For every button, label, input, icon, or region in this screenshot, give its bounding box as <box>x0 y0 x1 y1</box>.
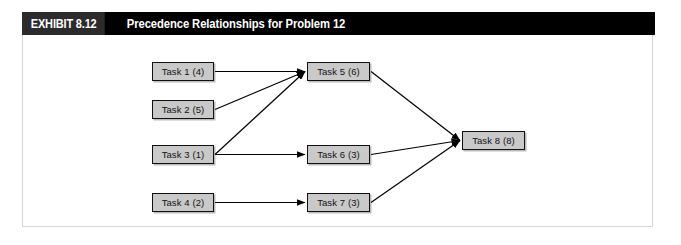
exhibit-title: Precedence Relationships for Problem 12 <box>116 12 345 35</box>
task-node-task3: Task 3 (1) <box>152 145 214 164</box>
exhibit-number-label: EXHIBIT 8.12 <box>22 12 104 35</box>
task-node-task5: Task 5 (6) <box>307 62 370 81</box>
exhibit-header: EXHIBIT 8.12 Precedence Relationships fo… <box>22 12 655 35</box>
task-node-task2: Task 2 (5) <box>152 100 214 119</box>
task-node-task4: Task 4 (2) <box>152 193 214 212</box>
task-node-task6: Task 6 (3) <box>307 145 370 164</box>
task-node-task1: Task 1 (4) <box>152 62 214 81</box>
task-node-task7: Task 7 (3) <box>307 193 370 212</box>
task-node-task8: Task 8 (8) <box>462 131 525 150</box>
